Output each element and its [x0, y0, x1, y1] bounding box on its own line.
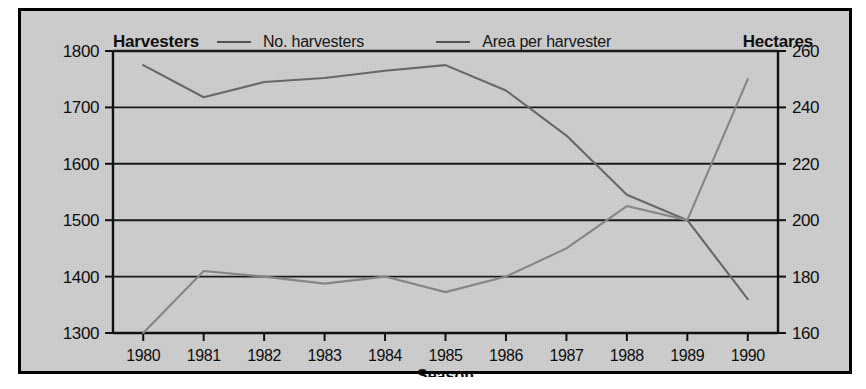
left-tick-label: 1400 — [63, 268, 99, 287]
right-tick-label: 240 — [792, 98, 819, 117]
series-line-2 — [143, 79, 748, 333]
x-tick-label: 1990 — [731, 347, 765, 364]
right-tick-label: 160 — [792, 324, 819, 343]
left-tick-label: 1500 — [63, 211, 99, 230]
right-axis-tick-labels: 160180200220240260 — [792, 42, 819, 343]
x-tick-label: 1983 — [308, 347, 342, 364]
axis-spines — [113, 51, 778, 333]
gridlines — [113, 51, 778, 277]
x-tick-label: 1981 — [187, 347, 221, 364]
right-tick-label: 220 — [792, 155, 819, 174]
x-tick-label: 1982 — [247, 347, 281, 364]
left-tick-label: 1700 — [63, 98, 99, 117]
x-tick-label: 1985 — [429, 347, 463, 364]
x-tick-label: 1989 — [670, 347, 704, 364]
x-axis-label: Season — [417, 367, 474, 377]
plot-area: 130014001500160017001800 160180200220240… — [21, 11, 855, 377]
x-axis-ticks — [143, 333, 748, 341]
x-axis-tick-labels: 1980198119821983198419851986198719881989… — [126, 347, 765, 364]
series-line-1 — [143, 65, 748, 299]
left-tick-label: 1800 — [63, 42, 99, 61]
left-tick-label: 1300 — [63, 324, 99, 343]
left-axis-tick-labels: 130014001500160017001800 — [63, 42, 99, 343]
x-tick-label: 1986 — [489, 347, 523, 364]
x-tick-label: 1987 — [549, 347, 583, 364]
x-tick-label: 1980 — [126, 347, 160, 364]
right-tick-label: 200 — [792, 211, 819, 230]
chart-svg: 130014001500160017001800 160180200220240… — [21, 11, 855, 377]
series-lines — [143, 65, 748, 333]
chart-figure: Harvesters No. harvesters Area per harve… — [0, 0, 866, 389]
right-tick-label: 180 — [792, 268, 819, 287]
left-tick-label: 1600 — [63, 155, 99, 174]
x-tick-label: 1984 — [368, 347, 402, 364]
chart-frame: Harvesters No. harvesters Area per harve… — [18, 8, 852, 374]
x-tick-label: 1988 — [610, 347, 644, 364]
right-tick-label: 260 — [792, 42, 819, 61]
